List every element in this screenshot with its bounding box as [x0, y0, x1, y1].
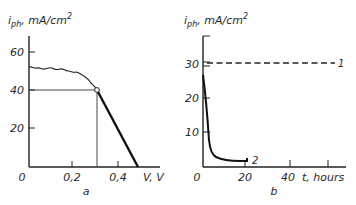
- y-axis-label-a: iph, mA/cm2: [8, 12, 72, 29]
- y-tick-label: 60: [10, 46, 24, 59]
- iv-curve-drop: [97, 90, 138, 167]
- y-tick-label: 20: [10, 122, 24, 135]
- x-tick-label: 0: [194, 171, 201, 184]
- y-tick-label: 30: [185, 58, 199, 71]
- y-tick-label: 20: [185, 92, 199, 105]
- x-tick-label: 0,2: [63, 171, 81, 184]
- y-tick-label: 40: [10, 84, 24, 97]
- figure-canvas: 60 40 20 0 0,2 0,4 iph, mA/cm2 V, V a: [0, 0, 356, 205]
- curve-2-decay: [203, 75, 247, 161]
- x-axis-label-b: t, hours: [302, 171, 345, 184]
- curve-2-label: 2: [252, 155, 258, 166]
- x-tick-label: 0: [19, 171, 26, 184]
- figure-caption-faded: [0, 196, 356, 205]
- x-tick-label: 40: [281, 171, 295, 184]
- curve-1-label: 1: [338, 58, 344, 69]
- max-power-point-marker: [95, 88, 100, 93]
- panel-a: 60 40 20 0 0,2 0,4 iph, mA/cm2 V, V a: [8, 12, 165, 198]
- x-axis-label-a: V, V: [143, 171, 165, 184]
- iv-curve-plateau: [29, 67, 97, 90]
- y-tick-label: 10: [185, 126, 199, 139]
- x-tick-label: 20: [238, 171, 252, 184]
- panel-b: 30 20 10 0 20 40 iph, mA/cm2 t, hours b …: [184, 12, 346, 198]
- y-axis-label-b: iph, mA/cm2: [184, 12, 248, 29]
- x-tick-label: 0,4: [109, 171, 127, 184]
